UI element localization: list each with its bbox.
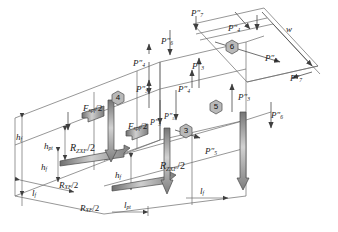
figure-canvas: 4 3 5 6 P″7 P″4 w P″4 P″7 P″6 P″4 P″3 P″… <box>0 0 338 232</box>
hex-marker-label-6: 6 <box>225 40 239 54</box>
label-p7-topleft: P″7 <box>191 9 203 19</box>
label-hpt: hpt <box>44 142 53 152</box>
hex-marker-label-3: 3 <box>179 124 193 138</box>
label-hf-outer: hf <box>16 133 22 143</box>
label-p5-right: P″5 <box>205 147 217 157</box>
label-p4-left: P″4 <box>133 59 145 69</box>
label-p3-inner: P″3 <box>150 119 161 128</box>
label-rxf-lower: RXF/2 <box>80 204 99 214</box>
label-rzxf-right: RZXF/2 <box>160 161 185 172</box>
label-p4-mid: P″4 <box>265 54 277 64</box>
hex-marker-label-4: 4 <box>111 91 125 105</box>
depth-edge-4 <box>246 112 271 120</box>
label-lf-left: lf <box>32 189 36 199</box>
plate-top-bottom-edge <box>247 66 318 82</box>
label-p6-upper: P″6 <box>161 37 173 47</box>
label-lf-right: lf <box>200 187 204 197</box>
label-p6-right: P″6 <box>271 111 283 121</box>
label-p4-top: P″4 <box>228 24 240 34</box>
label-lpt: lpt <box>124 201 131 211</box>
hex-marker-label-5: 5 <box>209 100 223 114</box>
label-w: w <box>286 25 292 34</box>
label-p5-mid: P″5 <box>164 113 175 122</box>
panel-middle-midline <box>160 69 246 89</box>
label-p4-lower: P″4 <box>178 85 190 95</box>
depth-edge-3 <box>246 36 264 42</box>
label-hf-right: hf <box>115 171 121 181</box>
label-hf-mid: hf <box>41 163 47 173</box>
label-p3-left: P″3 <box>136 85 148 95</box>
label-p3-right: P″3 <box>238 93 250 103</box>
plate-top-right <box>193 8 318 82</box>
arrow-rzxf-vertical-right <box>237 112 249 190</box>
label-fxpf-upper: Fxpf/2 <box>83 104 102 114</box>
label-rzxf-left: RZXF/2 <box>70 143 95 154</box>
label-p7-right: P″7 <box>290 74 302 84</box>
label-p3-mid: P″3 <box>192 62 204 72</box>
label-fxpf-lower: Fxpf/2 <box>128 122 147 132</box>
panel-middle <box>160 42 246 140</box>
label-rxf-left: RXF/2 <box>59 181 78 191</box>
